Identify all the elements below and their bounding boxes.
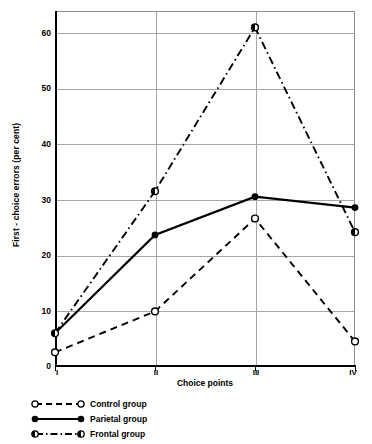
legend-symbol-parietal <box>30 412 86 426</box>
legend-symbol-frontal <box>30 427 86 441</box>
datapoint-frontal-group-III <box>252 24 259 31</box>
datapoint-control-group-II <box>152 308 159 315</box>
datapoint-parietal-group-III <box>252 193 259 200</box>
legend-item-frontal: Frontal group <box>30 426 147 441</box>
chart-legend: Control group Parietal group <box>30 396 147 441</box>
chart-figure: First - choice errors (per cent) 60 50 4… <box>0 0 372 444</box>
legend-label-frontal: Frontal group <box>86 429 145 439</box>
datapoint-frontal-group-IV <box>352 229 359 236</box>
series-line-control-group <box>55 219 355 353</box>
datapoint-parietal-group-IV <box>352 204 359 211</box>
series-line-parietal-group <box>55 197 355 334</box>
datapoint-parietal-group-II <box>152 232 159 239</box>
data-series-layer <box>0 0 372 444</box>
series-line-frontal-group <box>55 27 355 333</box>
datapoint-control-group-III <box>252 215 259 222</box>
datapoint-control-group-IV <box>352 338 359 345</box>
datapoint-frontal-group-II <box>152 188 159 195</box>
datapoint-frontal-group-I <box>52 330 59 337</box>
legend-symbol-control <box>30 397 86 411</box>
legend-label-control: Control group <box>86 399 147 409</box>
legend-item-parietal: Parietal group <box>30 411 147 426</box>
legend-label-parietal: Parietal group <box>86 414 147 424</box>
datapoint-control-group-I <box>52 349 59 356</box>
legend-item-control: Control group <box>30 396 147 411</box>
